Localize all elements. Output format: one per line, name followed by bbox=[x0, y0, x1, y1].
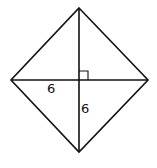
label-vertical-half: 6 bbox=[81, 101, 89, 116]
right-angle-marker bbox=[79, 71, 88, 80]
label-horizontal-half: 6 bbox=[47, 81, 55, 96]
rhombus-diagram: 6 6 bbox=[0, 0, 157, 168]
